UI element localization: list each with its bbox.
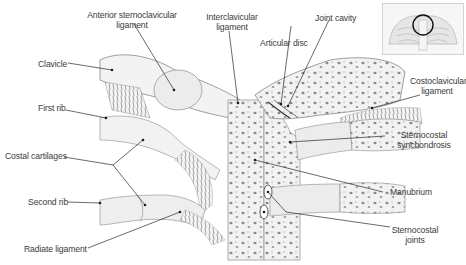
label-costoclavicular-ligament: Costoclavicular ligament	[410, 76, 464, 96]
left-clavicle	[100, 55, 240, 120]
sternum	[228, 100, 300, 260]
leader-costal-cartilages	[64, 157, 113, 165]
leader-sternocostal-joints	[286, 212, 390, 227]
inset-illustration	[383, 4, 463, 54]
label-clavicle: Clavicle	[38, 59, 67, 69]
anatomy-figure: Anterior sternoclavicular ligament Inter…	[0, 0, 466, 265]
label-manubrium: Manubrium	[390, 187, 432, 197]
leader-interclavicular	[229, 31, 238, 103]
leader-first-rib	[66, 110, 106, 118]
label-interclavicular-ligament: Interclavicular ligament	[200, 12, 264, 32]
label-second-rib: Second rib	[28, 197, 68, 207]
label-costal-cartilages: Costal cartilages	[5, 151, 67, 161]
leader-second-rib	[68, 202, 100, 203]
label-joint-cavity: Joint cavity	[315, 13, 356, 23]
left-ribs	[100, 116, 225, 245]
label-articular-disc: Articular disc	[260, 38, 308, 48]
label-anterior-sternoclavicular-ligament: Anterior sternoclavicular ligament	[72, 10, 192, 30]
label-radiate-ligament: Radiate ligament	[24, 244, 87, 254]
label-sternocostal-joints: Sternocostal joints	[380, 225, 450, 245]
label-sternocostal-synchondrosis: Sternocostal synchondrosis	[384, 130, 464, 150]
thorax-inset	[382, 3, 464, 55]
label-first-rib: First rib	[38, 103, 66, 113]
